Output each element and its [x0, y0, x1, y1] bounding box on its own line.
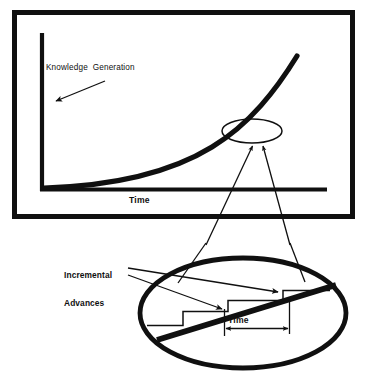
callout-projection-line-left: [206, 146, 253, 245]
knowledge-generation-pointer-arrow: [56, 81, 105, 101]
figure-root: Knowledge Generation Time Incremental Ad…: [0, 0, 368, 379]
lower-detail-group: [128, 258, 346, 368]
upper-chart-group: [15, 13, 353, 246]
diagram-canvas: [0, 0, 368, 379]
incremental-advances-label-line2: Advances: [64, 299, 112, 308]
trend-line-thick: [157, 285, 336, 340]
x-axis-label: Time: [129, 196, 150, 206]
growth-curve: [44, 56, 297, 188]
callout-projection-line-right: [263, 146, 290, 245]
incremental-advances-label-line1: Incremental: [64, 271, 112, 280]
incremental-advances-label: Incremental Advances: [64, 252, 112, 327]
dimension-time-label: Time: [228, 316, 249, 326]
y-axis-label: Knowledge Generation: [46, 63, 135, 72]
